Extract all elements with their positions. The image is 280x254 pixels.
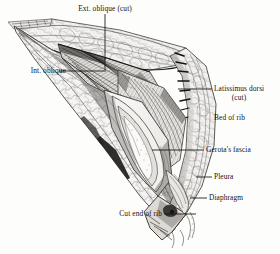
label-gerotas-fascia: Gerota's fascia [206,146,251,154]
label-pleura: Pleura [214,173,233,181]
label-bed-of-rib: Bed of rib [214,114,245,122]
label-cut-end-of-rib: Cut end of rib [74,210,162,218]
label-diaphragm: Diaphragm [209,194,243,202]
label-latissimus-dorsi-cut: (cut) [214,94,264,102]
label-ext-oblique: Ext. oblique (cut) [45,5,165,13]
label-int-oblique: Int. oblique [0,67,66,75]
